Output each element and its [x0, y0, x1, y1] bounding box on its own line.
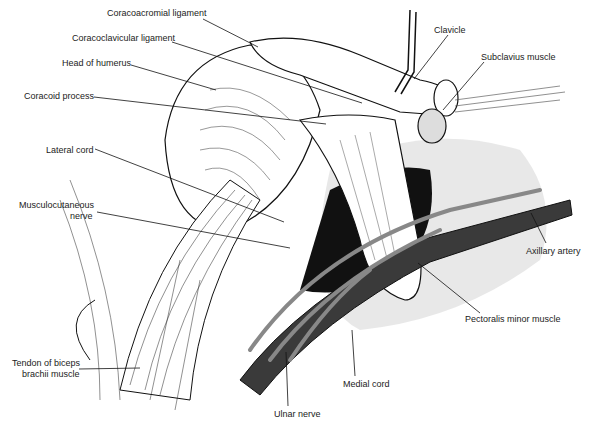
label-musculocutaneous-nerve-line2: nerve — [70, 211, 93, 222]
label-tendon-of-biceps-line1: Tendon of biceps — [12, 358, 80, 369]
label-ulnar-nerve: Ulnar nerve — [274, 409, 321, 420]
label-clavicle: Clavicle — [434, 25, 466, 36]
label-axillary-artery: Axillary artery — [526, 246, 581, 257]
label-head-of-humerus: Head of humerus — [62, 58, 131, 69]
leader-line-clavicle — [414, 35, 448, 79]
label-coracoid-process: Coracoid process — [24, 91, 94, 102]
label-coracoacromial-ligament: Coracoacromial ligament — [107, 8, 207, 19]
label-lateral-cord: Lateral cord — [46, 145, 94, 156]
leader-line-medial_cord — [352, 330, 355, 376]
anatomy-figure: Coracoacromial ligament Coracoclavicular… — [0, 0, 594, 434]
label-coracoclavicular-ligament: Coracoclavicular ligament — [72, 33, 175, 44]
label-medial-cord: Medial cord — [343, 379, 390, 390]
label-musculocutaneous-nerve-line1: Musculocutaneous — [19, 200, 94, 211]
label-pectoralis-minor-muscle: Pectoralis minor muscle — [465, 314, 561, 325]
label-tendon-of-biceps-line2: brachii muscle — [22, 369, 80, 380]
label-subclavius-muscle: Subclavius muscle — [481, 52, 556, 63]
leader-line-coracoacromial — [203, 19, 258, 47]
